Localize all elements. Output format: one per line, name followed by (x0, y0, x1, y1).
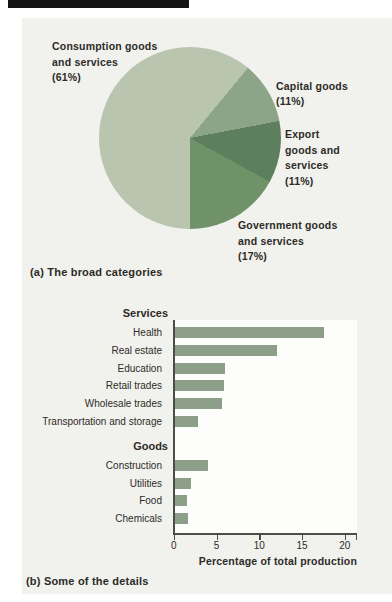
bar (175, 416, 199, 427)
x-tick (345, 535, 346, 540)
caption-a: (a) The broad categories (30, 266, 163, 278)
x-tick (217, 535, 218, 540)
x-tick-label: 20 (334, 540, 356, 551)
bar (175, 513, 189, 524)
pie-label-capital-goods: Capital goods (11%) (276, 79, 348, 109)
bar-label: Transportation and storage (30, 415, 168, 428)
x-axis-title: Percentage of total production (199, 555, 357, 567)
pie-label-government: Government goods and services (17%) (238, 218, 337, 265)
x-tick (302, 535, 303, 540)
x-tick (174, 535, 175, 540)
pie-label-export: Export goods and services (11%) (285, 127, 340, 189)
bar (175, 345, 278, 356)
x-tick-label: 10 (248, 540, 270, 551)
caption-b: (b) Some of the details (26, 575, 149, 587)
bar-label: Retail trades (30, 379, 168, 392)
x-axis-end-tick (356, 535, 357, 540)
x-tick-label: 0 (163, 540, 185, 551)
bar-label: Education (30, 362, 168, 375)
bar-label: Food (30, 494, 168, 507)
bar-label: Utilities (30, 477, 168, 490)
bar (175, 327, 325, 338)
bar-label: Wholesale trades (30, 397, 168, 410)
bar (175, 495, 188, 506)
pie-label-consumption: Consumption goods and services (61%) (52, 39, 157, 86)
bar-chart: ServicesHealthReal estateEducationRetail… (30, 307, 357, 577)
bar (175, 478, 191, 489)
bar (175, 363, 225, 374)
bar-label: Health (30, 326, 168, 339)
x-tick-label: 15 (291, 540, 313, 551)
top-crop-bar (8, 0, 189, 8)
x-axis-line (173, 533, 357, 535)
group-header-goods: Goods (30, 440, 168, 453)
group-header-services: Services (30, 307, 168, 320)
bar (175, 460, 208, 471)
bar-label: Construction (30, 459, 168, 472)
bar-label: Chemicals (30, 512, 168, 525)
bar (175, 398, 222, 409)
x-tick-label: 5 (206, 540, 228, 551)
bar-label: Real estate (30, 344, 168, 357)
x-tick (259, 535, 260, 540)
bar (175, 380, 225, 391)
figure-page: Consumption goods and services (61%) Cap… (0, 0, 392, 602)
